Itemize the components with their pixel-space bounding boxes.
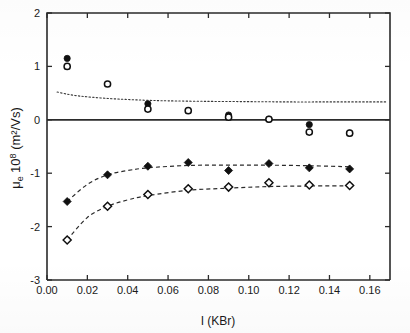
upper-open-circles-point [104,81,110,87]
y-tick-label: -3 [30,274,40,286]
x-axis-title-text: I (KBr) [201,314,236,328]
upper-open-circles-point [64,63,70,69]
x-tick-label: 0.16 [359,284,380,296]
x-tick-label: 0.02 [77,284,98,296]
y-tick-label: -1 [30,167,40,179]
x-axis-title: I (KBr) [201,314,236,328]
y-axis-units: (m²/Vs) [8,107,23,150]
upper-open-circles-point [185,108,191,114]
y-tick-label: 2 [34,7,40,19]
upper-open-circles-point [145,106,151,112]
figure-container: 0.000.020.040.060.080.100.120.140.16 210… [0,0,410,333]
upper-open-circles-point [306,129,312,135]
y-axis-mu-symbol: μ [8,181,23,189]
y-axis-title: μe 108 (m²/Vs) [8,107,25,189]
x-tick-label: 0.04 [117,284,138,296]
y-tick-label: 0 [34,114,40,126]
y-axis-ten: 10 [8,158,23,172]
upper-filled-circles-point [64,55,70,61]
x-axis-tick-labels: 0.000.020.040.060.080.100.120.140.16 [36,284,380,296]
x-tick-label: 0.06 [157,284,178,296]
upper-open-circles-point [347,130,353,136]
scatter-chart: 0.000.020.040.060.080.100.120.140.16 210… [0,0,410,333]
x-tick-label: 0.12 [278,284,299,296]
x-tick-label: 0.08 [198,284,219,296]
upper-open-circles-point [266,116,272,122]
x-tick-label: 0.14 [319,284,340,296]
upper-filled-circles-point [306,122,312,128]
y-axis-title-text: μe 108 (m²/Vs) [8,107,25,189]
x-tick-label: 0.10 [238,284,259,296]
upper-open-circles-point [225,114,231,120]
y-tick-label: 1 [34,60,40,72]
y-tick-label: -2 [30,221,40,233]
